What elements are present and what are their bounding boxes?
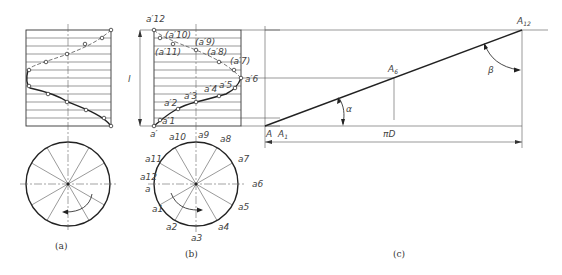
- lead-arrow-bottom: [138, 119, 142, 126]
- label-a5-prime: a′5: [219, 80, 233, 90]
- label-a12: a12: [140, 172, 157, 182]
- panel-a-helix-visible: [27, 70, 111, 126]
- label-a: a: [145, 184, 151, 194]
- label-a1-prime: a′1: [162, 116, 175, 126]
- label-a-prime: a′: [150, 129, 158, 139]
- label-a7: a7: [238, 154, 250, 164]
- lead-label: l: [128, 74, 131, 84]
- label-a7-prime: (a′7): [230, 56, 250, 66]
- label-a10: a10: [169, 132, 186, 142]
- label-a8: a8: [220, 134, 232, 144]
- panel-b-rotation-arrow: [171, 193, 198, 210]
- panel-a-center-point: [67, 183, 70, 186]
- panel-b-center-point: [195, 183, 198, 186]
- label-a8-prime: (a′8): [207, 47, 227, 57]
- label-a9: a9: [198, 130, 210, 140]
- label-alpha: α: [346, 104, 352, 114]
- label-A1: A1: [277, 129, 288, 140]
- panel-c: A A1 A6 A12 α β πD (c): [265, 16, 548, 259]
- panel-b: l a′12 (a′10) (a′9) (a′11) (a′8) (a′7) a…: [128, 14, 280, 259]
- panel-a-helix-hidden: [28, 30, 111, 70]
- label-piD: πD: [383, 129, 395, 139]
- label-a6-prime: a′6: [245, 74, 259, 84]
- label-a4-prime: a′4: [204, 84, 218, 94]
- label-a4: a4: [218, 222, 230, 232]
- label-A: A: [265, 129, 272, 139]
- pid-arrow-left: [265, 140, 272, 144]
- alpha-arrow-bottom: [341, 119, 345, 126]
- label-a1: a1: [152, 204, 163, 214]
- label-a11-prime: (a′11): [155, 47, 181, 57]
- panel-b-caption: (b): [185, 249, 198, 259]
- label-a10-prime: (a′10): [165, 30, 191, 40]
- panel-a-division-lines: [26, 38, 111, 118]
- panel-a-caption: (a): [55, 241, 67, 251]
- label-a12-prime: a′12: [146, 14, 165, 24]
- label-a2-prime: a′2: [164, 98, 178, 108]
- label-A6: A6: [387, 64, 398, 75]
- label-a3: a3: [191, 233, 203, 243]
- panel-b-rotation-arrowhead: [197, 208, 203, 213]
- pid-arrow-right: [515, 140, 522, 144]
- label-beta: β: [487, 65, 494, 75]
- helix-development-diagram: (a) l: [0, 0, 562, 275]
- label-a6: a6: [252, 179, 264, 189]
- panel-c-caption: (c): [393, 249, 405, 259]
- label-A12: A12: [516, 16, 531, 27]
- panel-a-rotation-arrowhead: [62, 210, 68, 215]
- label-a2: a2: [166, 222, 178, 232]
- label-a5: a5: [238, 202, 250, 212]
- label-a11: a11: [145, 154, 162, 164]
- lead-arrow-top: [138, 30, 142, 37]
- label-a3-prime: a′3: [184, 91, 198, 101]
- panel-a: (a): [20, 24, 116, 251]
- beta-arrow-right: [514, 68, 521, 73]
- label-a9-prime: (a′9): [195, 37, 215, 47]
